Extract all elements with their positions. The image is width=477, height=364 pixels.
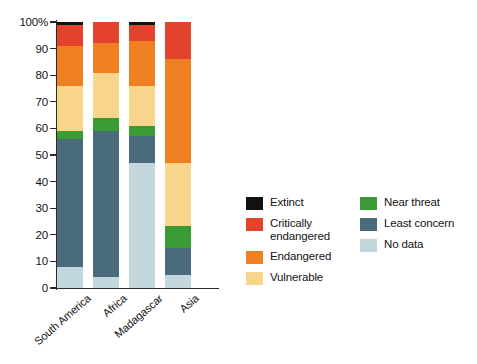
legend-swatch-icon	[246, 218, 263, 231]
legend-swatch-icon	[360, 197, 377, 210]
y-tick-mark	[50, 128, 56, 129]
bar-asia[interactable]	[165, 22, 191, 288]
bar-segment-no-data[interactable]	[93, 277, 119, 288]
legend-label: Least concern	[384, 217, 454, 230]
bar-segment-endangered[interactable]	[165, 59, 191, 163]
bar-segment-critically-endangered[interactable]	[57, 25, 83, 46]
plot-area	[57, 22, 213, 288]
y-tick-label: 30	[36, 202, 48, 214]
y-tick-mark	[50, 21, 56, 22]
x-tick-label: Africa	[100, 292, 129, 319]
legend-label: Criticallyendangered	[270, 217, 330, 243]
legend-item-no-data[interactable]: No data	[360, 238, 472, 252]
stacked-bar-chart: 0102030405060708090100% South AmericaAfr…	[0, 0, 477, 364]
x-axis-line	[56, 288, 219, 289]
bar-segment-endangered[interactable]	[93, 43, 119, 72]
legend-label: Near threat	[384, 196, 440, 209]
bar-segment-extinct[interactable]	[129, 22, 155, 25]
y-tick-label: 10	[36, 255, 48, 267]
bar-segment-vulnerable[interactable]	[129, 86, 155, 126]
y-tick-label: 90	[36, 43, 48, 55]
y-tick-label: 100%	[19, 16, 48, 28]
legend-item-least-concern[interactable]: Least concern	[360, 217, 472, 231]
bar-segment-near-threat[interactable]	[165, 226, 191, 249]
y-tick-mark	[50, 234, 56, 235]
y-tick-mark	[50, 154, 56, 155]
bar-africa[interactable]	[93, 22, 119, 288]
y-tick-mark	[50, 48, 56, 49]
legend-swatch-icon	[246, 197, 263, 210]
y-tick-mark	[50, 208, 56, 209]
bar-segment-vulnerable[interactable]	[165, 163, 191, 226]
legend-column-left: ExtinctCriticallyendangeredEndangeredVul…	[246, 196, 354, 292]
legend-swatch-icon	[246, 272, 263, 285]
y-tick-label: 0	[42, 282, 48, 294]
x-tick-label: South America	[32, 292, 93, 347]
bar-segment-no-data[interactable]	[165, 275, 191, 288]
legend-swatch-icon	[360, 239, 377, 252]
legend-swatch-icon	[360, 218, 377, 231]
legend-label: Extinct	[270, 196, 303, 209]
legend-item-near-threat[interactable]: Near threat	[360, 196, 472, 210]
y-tick-mark	[50, 75, 56, 76]
legend-label: Vulnerable	[270, 271, 323, 284]
y-tick-mark	[50, 181, 56, 182]
bar-segment-least-concern[interactable]	[57, 139, 83, 267]
y-tick-label: 60	[36, 122, 48, 134]
y-tick-label: 40	[36, 176, 48, 188]
y-tick-label: 20	[36, 229, 48, 241]
bar-segment-near-threat[interactable]	[57, 131, 83, 139]
bar-segment-least-concern[interactable]	[93, 131, 119, 277]
bar-segment-least-concern[interactable]	[129, 136, 155, 163]
bar-segment-critically-endangered[interactable]	[93, 22, 119, 43]
legend-item-endangered[interactable]: Endangered	[246, 250, 354, 264]
bar-segment-critically-endangered[interactable]	[165, 22, 191, 59]
bar-segment-vulnerable[interactable]	[93, 73, 119, 118]
bar-segment-extinct[interactable]	[57, 22, 83, 25]
y-tick-mark	[50, 261, 56, 262]
legend-label: No data	[384, 238, 423, 251]
bar-segment-no-data[interactable]	[129, 163, 155, 288]
legend-column-right: Near threatLeast concernNo data	[360, 196, 472, 292]
x-tick-label: Asia	[177, 292, 201, 315]
y-tick-mark	[50, 101, 56, 102]
bar-madagascar[interactable]	[129, 22, 155, 288]
legend-item-vulnerable[interactable]: Vulnerable	[246, 271, 354, 285]
y-tick-label: 50	[36, 149, 48, 161]
chart-legend: ExtinctCriticallyendangeredEndangeredVul…	[246, 196, 472, 292]
bar-segment-endangered[interactable]	[57, 46, 83, 86]
bar-segment-endangered[interactable]	[129, 41, 155, 86]
bar-segment-near-threat[interactable]	[129, 126, 155, 137]
y-tick-label: 80	[36, 69, 48, 81]
legend-item-extinct[interactable]: Extinct	[246, 196, 354, 210]
y-tick-label: 70	[36, 96, 48, 108]
legend-label: Endangered	[270, 250, 331, 263]
bar-segment-near-threat[interactable]	[93, 118, 119, 131]
bar-segment-critically-endangered[interactable]	[129, 25, 155, 41]
bar-south-america[interactable]	[57, 22, 83, 288]
y-tick-mark	[50, 287, 56, 288]
legend-swatch-icon	[246, 251, 263, 264]
bar-segment-vulnerable[interactable]	[57, 86, 83, 131]
bar-segment-least-concern[interactable]	[165, 248, 191, 275]
legend-item-critically-endangered[interactable]: Criticallyendangered	[246, 217, 354, 243]
bar-segment-no-data[interactable]	[57, 267, 83, 288]
